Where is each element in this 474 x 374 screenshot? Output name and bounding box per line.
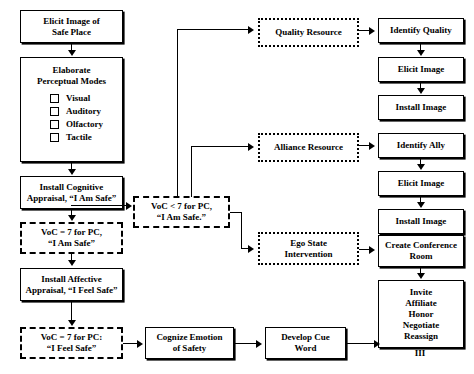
- checkbox-olfactory[interactable]: [50, 120, 59, 129]
- arrowhead-right: [369, 246, 375, 254]
- arrowhead-down: [417, 164, 425, 170]
- checklist-item-label: Auditory: [66, 106, 101, 116]
- node-label: Elicit Image: [398, 178, 445, 189]
- checklist-item-label: Visual: [66, 93, 90, 103]
- arrowhead-right: [248, 143, 254, 151]
- node-label: Ego State Intervention: [285, 238, 333, 260]
- node-label: Invite Affiliate Honor Negotiate Reassig…: [403, 287, 439, 342]
- arrowhead-down: [417, 88, 425, 94]
- node-ego-state-intervention[interactable]: Ego State Intervention: [258, 232, 359, 265]
- node-install-image-2[interactable]: Install Image: [378, 209, 464, 234]
- checklist-item[interactable]: Olfactory: [50, 119, 103, 129]
- checklist-item[interactable]: Tactile: [50, 132, 103, 142]
- node-voc-7-i-am-safe[interactable]: VoC = 7 for PC, “I Am Safe”: [20, 222, 123, 254]
- arrowhead-down: [68, 320, 76, 326]
- node-identify-quality[interactable]: Identify Quality: [378, 18, 464, 43]
- checklist-item-label: Tactile: [66, 132, 92, 142]
- connector-riser-to-alliance: [191, 146, 249, 147]
- node-quality-resource[interactable]: Quality Resource: [258, 18, 359, 47]
- checkbox-visual[interactable]: [50, 94, 59, 103]
- checklist-item-label: Olfactory: [66, 119, 103, 129]
- node-label: Install Image: [396, 102, 447, 113]
- arrowhead-down: [68, 50, 76, 56]
- node-identify-ally[interactable]: Identify Ally: [378, 133, 464, 158]
- arrowhead-right: [369, 27, 375, 35]
- node-voc-less-7-i-am-safe[interactable]: VoC < 7 for PC, “I Am Safe.”: [133, 196, 230, 228]
- node-label: Elicit Image of Safe Place: [43, 16, 100, 38]
- node-label: Alliance Resource: [274, 142, 343, 153]
- node-label: VoC = 7 for PC, “I Am Safe”: [41, 227, 102, 249]
- arrowhead-down: [417, 202, 425, 208]
- node-label: Elaborate Perceptual Modes: [37, 65, 106, 87]
- node-label: Identify Quality: [390, 25, 452, 36]
- connector-voc7feel-to-cognize: [123, 343, 138, 344]
- checkbox-auditory[interactable]: [50, 107, 59, 116]
- node-alliance-resource[interactable]: Alliance Resource: [258, 133, 359, 162]
- perceptual-modes-checklist: Visual Auditory Olfactory Tactile: [50, 93, 103, 142]
- connector-affective-to-voc7feel: [71, 301, 72, 321]
- arrowhead-right: [369, 142, 375, 150]
- arrowhead-down: [417, 50, 425, 56]
- node-label: Elicit Image: [398, 64, 445, 75]
- node-label: VoC < 7 for PC, “I Am Safe.”: [151, 201, 212, 223]
- connector-voc-less7-down-to-ego: [241, 212, 242, 249]
- connector-voc-less7-riser-alliance: [191, 146, 192, 197]
- node-elicit-image-2[interactable]: Elicit Image: [378, 171, 464, 196]
- arrowhead-right: [126, 202, 132, 210]
- node-develop-cue-word[interactable]: Develop Cue Word: [265, 327, 346, 359]
- node-create-conference-room[interactable]: Create Conference Room: [378, 235, 464, 267]
- connector-cognize-to-cueword: [234, 343, 257, 344]
- arrowhead-right: [374, 340, 380, 348]
- arrowhead-right: [248, 245, 254, 253]
- node-label: Identify Ally: [397, 140, 445, 151]
- connector-cognitive-to-voc-less7: [71, 205, 127, 206]
- arrowhead-down: [68, 169, 76, 175]
- connector-voc-less7-riser-quality: [177, 29, 178, 197]
- arrowhead-down: [68, 215, 76, 221]
- node-install-image-1[interactable]: Install Image: [378, 95, 464, 120]
- connector-cueword-to-skill3: [346, 343, 375, 344]
- flowchart-canvas: Elicit Image of Safe Place Elaborate Per…: [0, 0, 474, 374]
- node-install-affective-appraisal[interactable]: Install Affective Appraisal, “I Feel Saf…: [20, 268, 123, 301]
- node-label: Develop Cue Word: [281, 332, 330, 354]
- arrowhead-right: [248, 26, 254, 34]
- node-label: Install Image: [396, 216, 447, 227]
- node-voc-7-i-feel-safe[interactable]: VoC = 7 for PC: “I Feel Safe”: [20, 327, 123, 359]
- node-elicit-image-safe-place[interactable]: Elicit Image of Safe Place: [20, 10, 123, 43]
- checklist-item[interactable]: Auditory: [50, 106, 103, 116]
- node-label: Create Conference Room: [385, 240, 457, 262]
- node-label: Cognize Emotion of Safety: [156, 332, 222, 354]
- arrowhead-right: [256, 340, 262, 348]
- node-label: Install Affective Appraisal, “I Feel Saf…: [26, 274, 118, 296]
- node-label: Install Cognitive Appraisal, “I Am Safe”: [27, 182, 117, 204]
- arrowhead-right: [137, 340, 143, 348]
- arrowhead-down: [68, 260, 76, 266]
- checklist-item[interactable]: Visual: [50, 93, 103, 103]
- connector-riser-to-quality: [177, 29, 249, 30]
- node-label: VoC = 7 for PC: “I Feel Safe”: [41, 332, 103, 354]
- node-elicit-image-1[interactable]: Elicit Image: [378, 57, 464, 82]
- node-conference-actions[interactable]: Invite Affiliate Honor Negotiate Reassig…: [378, 280, 464, 348]
- arrowhead-down: [417, 273, 425, 279]
- node-cognize-emotion-of-safety[interactable]: Cognize Emotion of Safety: [145, 327, 234, 359]
- checkbox-tactile[interactable]: [50, 133, 59, 142]
- node-label: Quality Resource: [275, 27, 342, 38]
